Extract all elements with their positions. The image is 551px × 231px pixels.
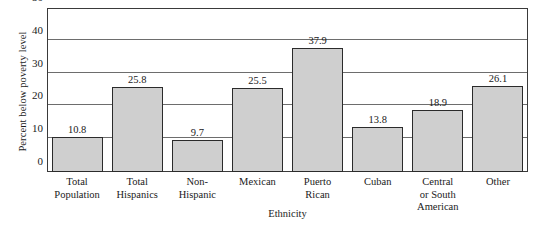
x-axis-title: Ethnicity — [47, 208, 528, 219]
x-tick-label-line: Cuban — [345, 176, 410, 189]
x-tick-label: Mexican — [225, 176, 290, 189]
x-tick-label-line: Population — [45, 189, 110, 202]
bar-value-label: 37.9 — [286, 35, 349, 46]
y-tick-label-0: 0 — [3, 156, 43, 167]
x-tick-label: PuertoRican — [285, 176, 350, 201]
x-tick-label: TotalPopulation — [45, 176, 110, 201]
x-tick-label-line: Total — [105, 176, 170, 189]
bar — [52, 137, 103, 172]
bar-value-label: 26.1 — [466, 73, 529, 84]
bar — [112, 87, 163, 172]
bar-value-label: 18.9 — [406, 97, 469, 108]
bar — [292, 48, 343, 172]
bar-value-label: 10.8 — [46, 124, 109, 135]
x-tick-label: Cuban — [345, 176, 410, 189]
x-tick-label: Other — [465, 176, 530, 189]
x-tick-label-line: Puerto — [285, 176, 350, 189]
bar-value-label: 25.5 — [226, 75, 289, 86]
bar-value-label: 9.7 — [166, 127, 229, 138]
y-tick-label-20: 20 — [3, 90, 43, 101]
bar-value-label: 25.8 — [106, 74, 169, 85]
x-tick-label-line: Hispanics — [105, 189, 170, 202]
y-tick-label-50: 50 — [3, 0, 43, 3]
y-tick-label-10: 10 — [3, 123, 43, 134]
poverty-by-ethnicity-bar-chart: Percent below poverty level 01020304050 … — [0, 0, 551, 231]
x-tick-label-line: Mexican — [225, 176, 290, 189]
bar — [232, 88, 283, 172]
bar — [472, 86, 523, 172]
x-tick-label-line: Rican — [285, 189, 350, 202]
y-axis-tick-labels: 01020304050 — [0, 8, 43, 172]
x-tick-label-line: or South — [405, 189, 470, 202]
x-tick-label-line: Non- — [165, 176, 230, 189]
bar — [412, 110, 463, 172]
x-tick-label-line: Central — [405, 176, 470, 189]
x-tick-label-line: Other — [465, 176, 530, 189]
x-tick-label: Non-Hispanic — [165, 176, 230, 201]
y-tick-label-40: 40 — [3, 25, 43, 36]
bar-value-label: 13.8 — [346, 114, 409, 125]
x-tick-label: TotalHispanics — [105, 176, 170, 201]
bars-layer: 10.825.89.725.537.913.818.926.1 — [47, 8, 528, 172]
bar — [352, 127, 403, 172]
y-tick-label-30: 30 — [3, 58, 43, 69]
x-tick-label-line: Total — [45, 176, 110, 189]
bar — [172, 140, 223, 172]
x-tick-label-line: Hispanic — [165, 189, 230, 202]
